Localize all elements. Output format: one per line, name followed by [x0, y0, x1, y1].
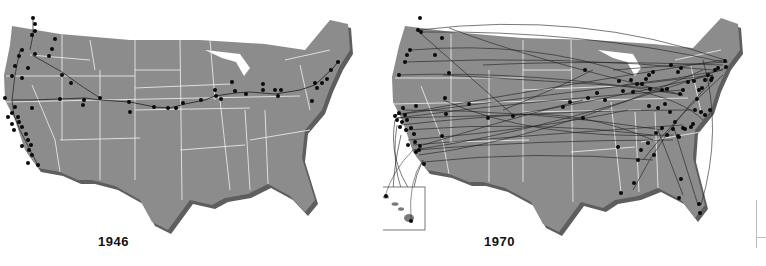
land-mass [4, 20, 350, 230]
hawaii-inset-frame [383, 187, 425, 230]
us-map-1970 [383, 0, 766, 266]
caption-1970: 1970 [484, 234, 515, 249]
map-panel-1946: 1946 [0, 0, 383, 266]
partial-frame-tick [756, 237, 766, 238]
us-map-1946 [0, 0, 383, 266]
map-panel-1970: 1970 [383, 0, 766, 266]
partial-frame-edge [756, 200, 757, 248]
caption-1946: 1946 [98, 234, 129, 249]
land-mass [392, 18, 740, 232]
